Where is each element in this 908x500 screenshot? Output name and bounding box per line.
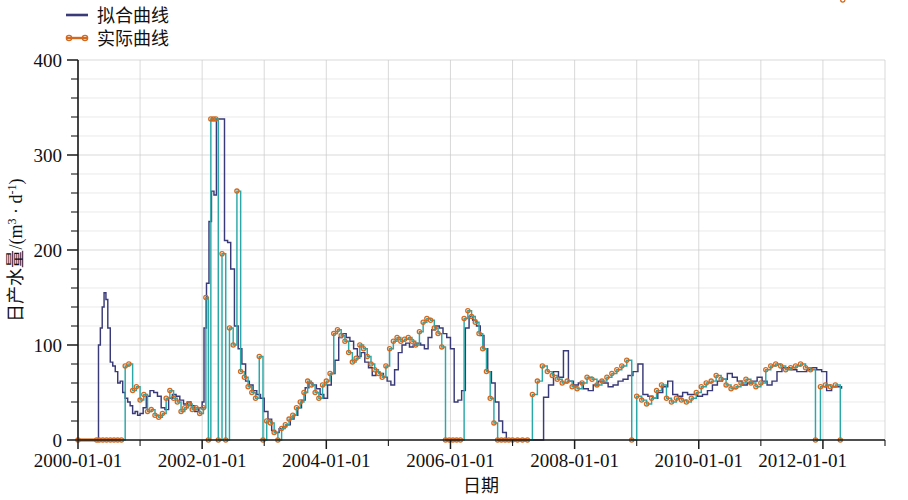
x-tick-label: 2012-01-01 <box>758 450 847 471</box>
y-tick-label: 0 <box>53 430 63 451</box>
y-tick-label: 200 <box>34 240 63 261</box>
x-tick-label: 2000-01-01 <box>34 450 123 471</box>
axis-layer <box>67 60 885 449</box>
legend-label-fitted: 拟合曲线 <box>97 6 169 26</box>
x-tick-label: 2002-01-01 <box>158 450 247 471</box>
x-tick-label: 2004-01-01 <box>282 450 371 471</box>
chart-canvas: 01002003004002000-01-012002-01-012004-01… <box>0 0 908 500</box>
legend-swatch-actual <box>66 35 88 40</box>
legend: 拟合曲线 实际曲线 <box>66 6 169 49</box>
x-axis-title: 日期 <box>463 476 499 496</box>
series-line-fitted <box>78 119 842 440</box>
x-tick-label: 2006-01-01 <box>406 450 495 471</box>
y-tick-label: 300 <box>34 145 63 166</box>
x-tick-label: 2008-01-01 <box>530 450 619 471</box>
x-tick-label: 2010-01-01 <box>654 450 743 471</box>
y-tick-label: 100 <box>34 335 63 356</box>
legend-label-actual: 实际曲线 <box>97 29 169 49</box>
series-line-actual <box>78 119 843 440</box>
chart-figure: 01002003004002000-01-012002-01-012004-01… <box>0 0 908 500</box>
series-layer <box>76 0 845 442</box>
y-tick-label: 400 <box>34 50 63 71</box>
y-axis-title: 日产水量/(m3 · d-1) <box>5 179 27 322</box>
series-marker-actual <box>841 0 845 2</box>
tick-label-layer: 01002003004002000-01-012002-01-012004-01… <box>34 50 847 471</box>
